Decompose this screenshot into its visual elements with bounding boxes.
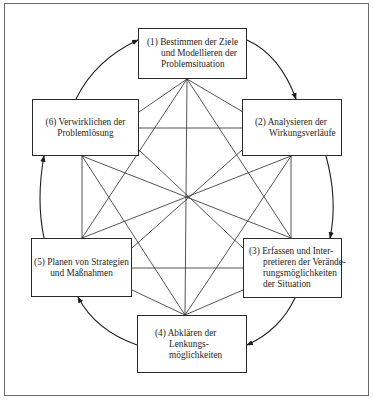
step-4-line-3: möglichkeiten xyxy=(155,350,246,361)
step-3-line-2: pretieren der Verände- xyxy=(249,257,341,268)
step-1-line-3: Problemsituation xyxy=(147,59,246,70)
step-3-line-4: der Situation xyxy=(249,279,341,290)
arrow-1-to-2 xyxy=(247,40,296,99)
arrow-6-to-1 xyxy=(76,40,138,99)
step-4-line-2: Lenkungs- xyxy=(155,339,246,350)
step-5-line-2: und Maßnahmen xyxy=(50,268,113,279)
step-box-5: (5) Planen von Strategien und Maßnahmen xyxy=(31,238,132,297)
step-2-line-1: (2) Analysieren der xyxy=(255,117,341,128)
step-4-line-1: (4) Abklären der xyxy=(155,328,246,339)
step-box-6: (6) Verwirklichen der Problemlösung xyxy=(32,99,139,156)
step-3-line-1: (3) Erfassen und Inter- xyxy=(249,246,341,257)
step-5-line-1: (5) Planen von Strategien xyxy=(34,257,129,268)
arrow-3-to-4 xyxy=(247,298,295,345)
arrow-4-to-5 xyxy=(78,297,137,345)
step-1-line-1: (1) Bestimmen der Ziele xyxy=(147,37,246,48)
step-box-2: (2) Analysieren der Wirkungsverläufe xyxy=(242,99,342,156)
step-box-1: (1) Bestimmen der Ziele und Modellieren … xyxy=(138,28,247,79)
step-box-4: (4) Abklären der Lenkungs- möglichkeiten xyxy=(137,315,247,373)
step-box-3: (3) Erfassen und Inter- pretieren der Ve… xyxy=(243,238,342,298)
step-1-line-2: und Modellieren der xyxy=(147,48,246,59)
arrow-2-to-3 xyxy=(326,156,333,238)
step-6-line-1: (6) Verwirklichen der xyxy=(46,117,126,128)
step-3-line-3: rungsmöglichkeiten xyxy=(249,268,341,279)
arrow-5-to-6 xyxy=(40,156,44,238)
step-6-line-2: Problemlösung xyxy=(57,128,113,139)
step-2-line-2: Wirkungsverläufe xyxy=(255,128,341,139)
